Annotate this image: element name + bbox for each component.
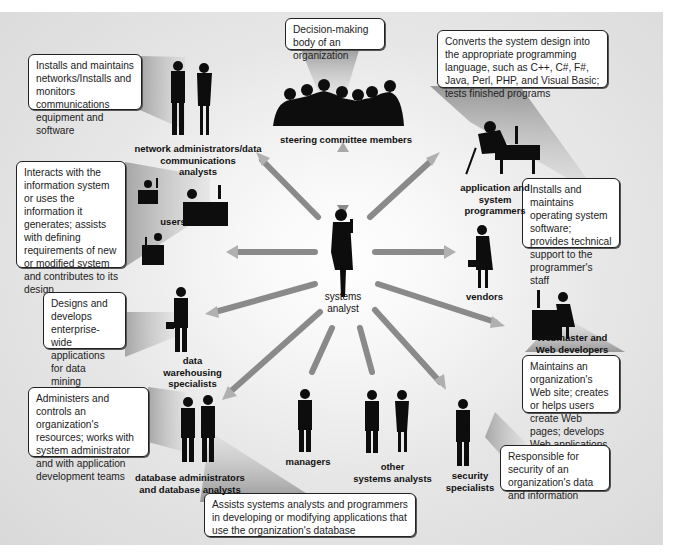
datawarehouse-label: data warehousing specialists [155, 355, 230, 390]
systems-analyst-label: systems analyst [318, 291, 368, 314]
network-admins-figure [171, 61, 212, 135]
users-label: users [153, 216, 193, 228]
steering-committee-figure [273, 79, 404, 126]
steering-description-box: Decision-making body of an organization [285, 18, 385, 50]
programmers-description-box: Converts the system design into the appr… [437, 30, 608, 88]
users-description-box: Interacts with the information system or… [16, 161, 126, 268]
network-label: network administrators/data communicatio… [128, 143, 268, 178]
vendors-figure [468, 225, 493, 288]
webmaster-label: Webmaster and Web developers [527, 332, 617, 355]
sysprog-description-box: Installs and maintains operating system … [522, 178, 620, 248]
dba-label: database administrators and database ana… [120, 472, 260, 495]
datawarehouse-description-box: Designs and develops enterprise-wide app… [43, 292, 126, 349]
other-systems-analysts-figure [365, 390, 409, 453]
steering-label: steering committee members [280, 134, 410, 146]
diagram-canvas: Installs and maintains networks/Installs… [0, 12, 663, 545]
webmaster-description-box: Maintains an organization's Web site; cr… [522, 355, 620, 413]
managers-label: managers [278, 456, 338, 468]
systems-analyst-figure [331, 209, 353, 297]
security-specialists-figure [456, 399, 470, 466]
data-warehousing-figure [166, 287, 188, 352]
managers-figure [298, 389, 312, 452]
dba-description-box: Administers and controls an organization… [28, 387, 149, 457]
programmers-label: application and system programmers [460, 182, 530, 217]
security-label: security specialists [440, 470, 500, 493]
security-description-box: Responsible for security of an organizat… [500, 445, 610, 491]
vendors-label: vendors [462, 291, 507, 303]
dbanalyst-description-box: Assists systems analysts and programmers… [204, 493, 416, 537]
network-description-box: Installs and maintains networks/Installs… [28, 54, 142, 110]
programmers-figure [465, 121, 540, 174]
other-systems-analysts-label: other systems analysts [350, 461, 435, 484]
dba-figure [181, 395, 215, 462]
